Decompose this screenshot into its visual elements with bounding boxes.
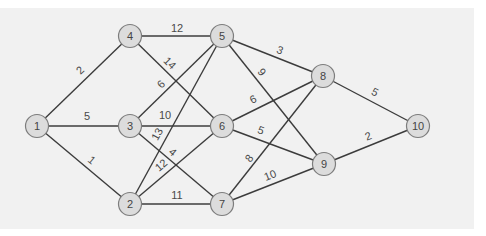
node-2: 2 [119,193,142,216]
node-label: 3 [127,120,133,132]
edge-weight-label: 12 [171,22,183,34]
graph-diagram: 25112146104131211396581052 12345678910 [0,0,486,236]
node-label: 6 [219,120,225,132]
node-label: 10 [412,120,424,132]
node-5: 5 [211,25,234,48]
node-3: 3 [119,115,142,138]
edge-weight-label: 10 [159,109,171,121]
node-label: 1 [34,120,40,132]
node-label: 5 [219,30,225,42]
node-10: 10 [407,115,430,138]
node-7: 7 [211,193,234,216]
node-4: 4 [119,25,142,48]
node-label: 4 [127,30,133,42]
node-label: 9 [321,158,327,170]
node-label: 8 [320,70,326,82]
node-label: 7 [219,198,225,210]
edge-weight-label: 11 [171,189,182,201]
node-9: 9 [313,153,336,176]
edge-weight-label: 5 [84,110,90,122]
node-label: 2 [127,198,133,210]
node-6: 6 [211,115,234,138]
node-8: 8 [312,65,335,88]
node-1: 1 [26,115,49,138]
